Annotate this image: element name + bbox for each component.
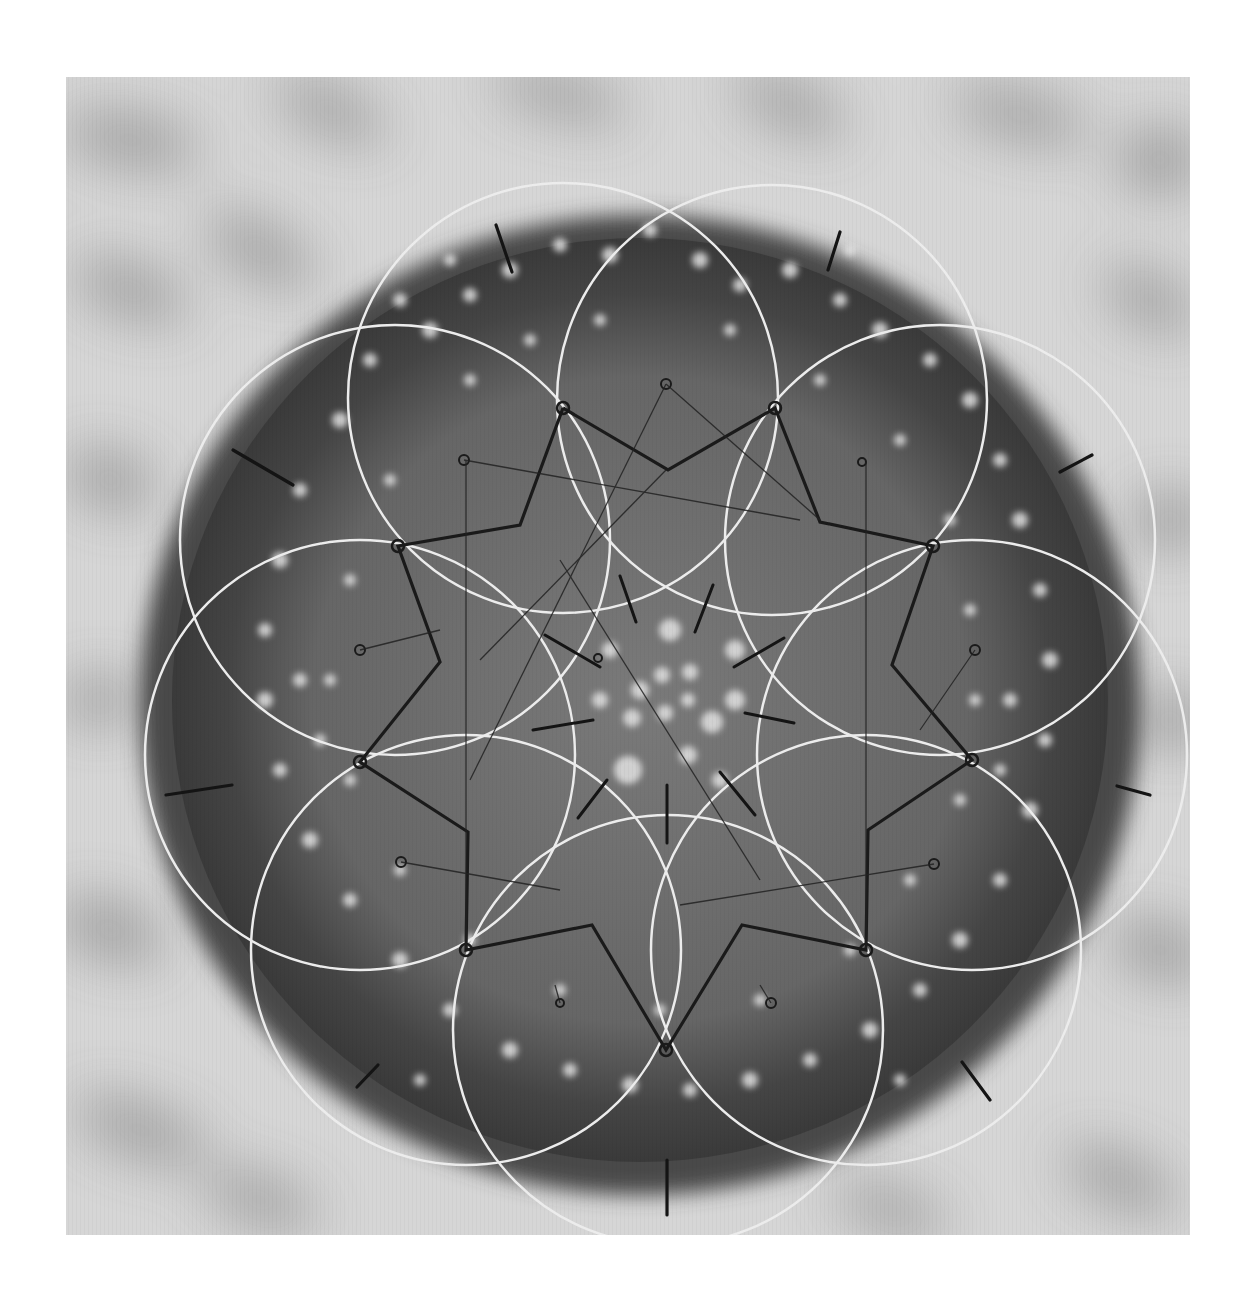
artwork: Cactus viewed from above with eight over… xyxy=(0,0,1259,1306)
canvas-texture xyxy=(66,77,1190,1235)
photo-frame xyxy=(66,77,1190,1235)
cactus-photo xyxy=(66,77,1190,1235)
